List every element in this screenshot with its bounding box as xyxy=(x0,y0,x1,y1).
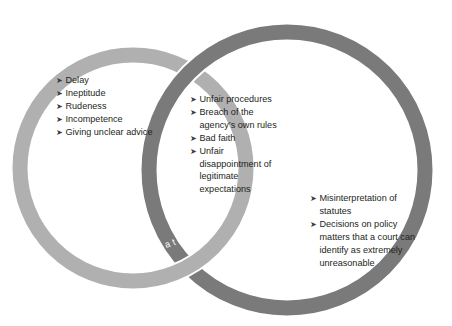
bullet-list-intersection: ➤Unfair procedures ➤Breach of the agency… xyxy=(190,93,280,196)
arrow-bullet-icon: ➤ xyxy=(190,132,197,145)
list-item-label: Unfair procedures xyxy=(200,94,272,104)
list-item: ➤Unfair procedures xyxy=(190,93,280,106)
list-item-label: Decisions on policy matters that a court… xyxy=(320,219,416,268)
list-item: ➤Decisions on policy matters that a cour… xyxy=(310,218,430,270)
region-intersection: ➤Unfair procedures ➤Breach of the agency… xyxy=(190,93,280,196)
arrow-bullet-icon: ➤ xyxy=(190,93,197,106)
list-item: ➤Incompetence xyxy=(56,113,188,126)
list-item: ➤Giving unclear advice xyxy=(56,126,188,139)
list-item-label: Unfair disappointment of legitimate expe… xyxy=(200,146,272,195)
arrow-bullet-icon: ➤ xyxy=(56,113,63,126)
arrow-bullet-icon: ➤ xyxy=(190,145,197,158)
arrow-bullet-icon: ➤ xyxy=(56,100,63,113)
arrow-bullet-icon: ➤ xyxy=(56,87,63,100)
arrow-bullet-icon: ➤ xyxy=(56,74,63,87)
list-item: ➤Bad faith xyxy=(190,132,280,145)
list-item: ➤Unfair disappointment of legitimate exp… xyxy=(190,145,280,197)
list-item: ➤Rudeness xyxy=(56,100,188,113)
list-item-label: Bad faith xyxy=(200,133,236,143)
list-item: ➤Delay xyxy=(56,74,188,87)
bullet-list-right: ➤Misinterpretation of statutes ➤Decision… xyxy=(310,192,430,269)
arrow-bullet-icon: ➤ xyxy=(56,126,63,139)
region-maladministration-only: ➤Delay ➤Ineptitude ➤Rudeness ➤Incompeten… xyxy=(56,74,188,139)
bullet-list-left: ➤Delay ➤Ineptitude ➤Rudeness ➤Incompeten… xyxy=(56,74,188,139)
list-item-label: Giving unclear advice xyxy=(66,127,153,137)
arrow-bullet-icon: ➤ xyxy=(310,192,317,205)
list-item: ➤Breach of the agency’s own rules xyxy=(190,106,280,132)
list-item-label: Incompetence xyxy=(66,114,123,124)
region-unlawfulness-only: ➤Misinterpretation of statutes ➤Decision… xyxy=(310,192,430,269)
arrow-bullet-icon: ➤ xyxy=(190,106,197,119)
list-item-label: Ineptitude xyxy=(66,88,106,98)
list-item: ➤Ineptitude xyxy=(56,87,188,100)
list-item-label: Breach of the agency’s own rules xyxy=(200,107,277,130)
venn-diagram: Unlawfulness Maladministration ➤Delay ➤I… xyxy=(0,0,452,326)
list-item-label: Misinterpretation of statutes xyxy=(320,193,397,216)
arrow-bullet-icon: ➤ xyxy=(310,218,317,231)
list-item-label: Rudeness xyxy=(66,101,107,111)
list-item-label: Delay xyxy=(66,75,89,85)
list-item: ➤Misinterpretation of statutes xyxy=(310,192,430,218)
